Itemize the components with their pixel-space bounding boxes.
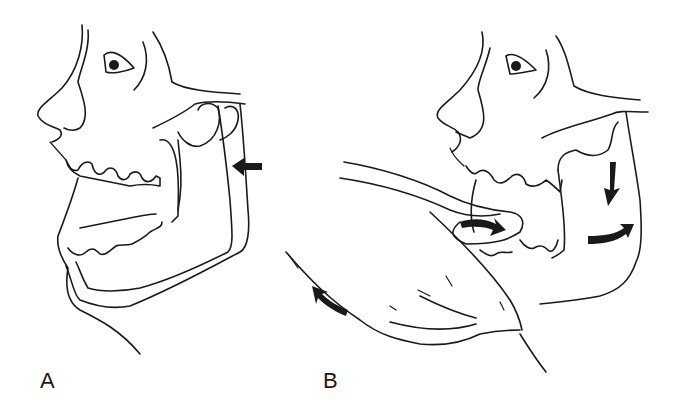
panel-b-label: B (323, 368, 338, 394)
panel-b-condyle (558, 122, 618, 170)
panel-b-thumb-inner (340, 178, 500, 216)
panel-b-pupil (511, 61, 521, 71)
panel-a-face-profile (38, 25, 83, 142)
panel-b-zygoma (542, 112, 648, 139)
panel-a-mandible-outer (66, 104, 249, 307)
panel-a-temple-line (153, 32, 240, 94)
panel-b-mandible-outline (540, 112, 641, 304)
panel-b-down-arrow-icon (604, 162, 620, 206)
panel-b-neck-line (520, 334, 546, 372)
panel-b-temple-line (556, 36, 640, 100)
panel-a-illustration (38, 25, 298, 354)
panel-b-finger-2 (420, 296, 476, 318)
panel-a-condyle-1 (178, 104, 219, 147)
panel-a-zygoma (153, 102, 245, 128)
panel-b-nose-line (456, 48, 490, 138)
panel-b-pull-arrow-icon (312, 286, 348, 316)
panel-b-knuckle-lines (390, 276, 504, 310)
panel-b-thumb-arrow-icon (460, 218, 506, 236)
panel-b-ramus (552, 170, 565, 258)
panel-a-mandible-outline (76, 106, 232, 291)
panel-a-eye (104, 53, 134, 73)
panel-a-ramus-front (160, 140, 179, 222)
panel-b-upper-teeth (466, 166, 562, 192)
panel-b-eye (506, 55, 536, 74)
panel-b-illustration (286, 32, 648, 372)
panel-b-finger-1 (390, 322, 476, 329)
panel-b-upper-lip (450, 148, 464, 166)
panel-a-upper-teeth (66, 160, 160, 186)
panel-a-pupil (109, 60, 119, 70)
panel-a-push-arrow-icon (232, 158, 262, 176)
panel-a-label: A (40, 368, 55, 394)
panel-b-forward-arrow-icon (588, 224, 634, 244)
panel-b-hand-top (430, 212, 522, 330)
panel-a-upper-lip (50, 142, 66, 160)
jaw-dislocation-diagram (0, 0, 678, 414)
panel-a-chin (58, 178, 140, 354)
panel-a-cheek-line (134, 42, 146, 90)
panel-b-cheek-line (534, 50, 549, 98)
panel-a-lower-teeth-row (80, 214, 156, 228)
